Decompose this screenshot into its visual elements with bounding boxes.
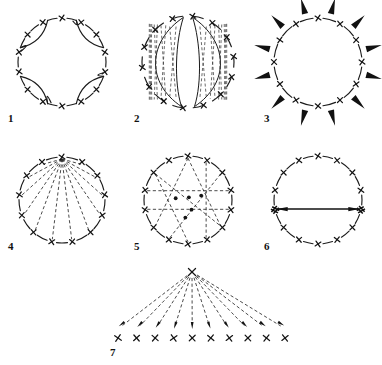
panel-2 bbox=[139, 13, 236, 110]
arrow-head bbox=[328, 109, 335, 125]
x-marker bbox=[354, 37, 359, 42]
x-marker bbox=[94, 87, 99, 92]
circle-arc-segment bbox=[355, 177, 359, 186]
arrow-head bbox=[119, 321, 125, 326]
x-marker bbox=[293, 21, 299, 27]
x-marker bbox=[204, 237, 209, 242]
x-marker bbox=[337, 21, 342, 26]
fan-line bbox=[122, 276, 187, 326]
arrow-head bbox=[137, 321, 143, 327]
circle-arc-segment bbox=[323, 242, 333, 244]
circle-arc-segment bbox=[85, 93, 93, 99]
x-marker bbox=[334, 237, 339, 242]
circle-arc-segment bbox=[344, 27, 353, 36]
circle-arc-segment bbox=[146, 177, 150, 186]
marker-stroke bbox=[282, 336, 288, 341]
panel-1-label: 1 bbox=[8, 112, 14, 124]
circle-arc-segment bbox=[358, 44, 361, 57]
circle-arc-segment bbox=[104, 200, 105, 211]
x-marker bbox=[31, 230, 36, 235]
x-marker bbox=[296, 158, 302, 164]
arrow-head bbox=[241, 321, 247, 327]
x-marker bbox=[16, 192, 22, 198]
panel-7-label: 7 bbox=[110, 346, 116, 358]
x-marker bbox=[263, 335, 269, 341]
panel-3-label: 3 bbox=[264, 112, 270, 124]
circle-arc-segment bbox=[48, 18, 58, 20]
circle-arc-segment bbox=[94, 220, 100, 229]
circle-arc-segment bbox=[20, 180, 24, 190]
inward-lobe-arc bbox=[76, 76, 103, 103]
x-marker bbox=[315, 103, 320, 108]
heavy-marker bbox=[271, 206, 279, 214]
circle-arc-segment bbox=[193, 156, 203, 158]
circle-arc-segment bbox=[304, 242, 314, 244]
circle-arc-segment bbox=[355, 215, 359, 224]
x-marker bbox=[185, 153, 191, 159]
x-marker bbox=[99, 212, 105, 218]
panel-6 bbox=[271, 153, 365, 247]
x-marker bbox=[170, 16, 176, 22]
panel-3 bbox=[254, 0, 382, 126]
x-marker bbox=[59, 15, 65, 21]
fan-line bbox=[175, 278, 190, 325]
circle-arc-segment bbox=[67, 104, 77, 106]
x-marker bbox=[40, 99, 45, 104]
circle-arc-segment bbox=[323, 102, 336, 105]
circle-arc-segment bbox=[283, 27, 292, 36]
chord-node-dot bbox=[187, 195, 191, 199]
circle-arc-segment bbox=[225, 177, 229, 186]
arrow-head bbox=[328, 0, 335, 15]
panel-2-label: 2 bbox=[134, 112, 140, 124]
x-marker bbox=[220, 225, 225, 230]
chord-line bbox=[188, 158, 221, 226]
x-marker bbox=[188, 268, 195, 275]
circle-arc-segment bbox=[31, 93, 39, 99]
marker-stroke bbox=[353, 82, 359, 86]
x-marker bbox=[210, 20, 215, 25]
panel-4 bbox=[16, 154, 107, 245]
x-marker bbox=[161, 98, 166, 103]
marker-stroke bbox=[49, 240, 55, 244]
marker-stroke bbox=[99, 213, 105, 217]
arrow-head bbox=[207, 322, 211, 329]
x-marker bbox=[142, 207, 148, 213]
x-marker bbox=[282, 335, 288, 341]
circle-arc-segment bbox=[19, 200, 20, 211]
inward-lobe-arc bbox=[20, 76, 47, 103]
circle-arc-segment bbox=[300, 102, 313, 105]
fan-line bbox=[158, 277, 189, 325]
circle-arc-segment bbox=[323, 156, 333, 158]
circle-arc-segment bbox=[276, 177, 280, 186]
lens-outline bbox=[193, 17, 221, 106]
marker-stroke bbox=[17, 192, 21, 198]
marker-stroke bbox=[102, 70, 108, 74]
x-marker bbox=[94, 32, 99, 37]
x-marker bbox=[151, 225, 156, 230]
x-marker bbox=[208, 335, 214, 341]
circle-arc-segment bbox=[341, 163, 349, 169]
chord-node-dot bbox=[183, 216, 187, 220]
x-marker bbox=[19, 213, 24, 218]
x-marker bbox=[142, 44, 148, 50]
circle-arc-segment bbox=[283, 88, 292, 97]
circle-arc-segment bbox=[323, 18, 336, 21]
circle-arc-segment bbox=[48, 104, 58, 106]
marker-stroke bbox=[316, 15, 320, 21]
x-marker bbox=[315, 241, 321, 247]
arrow-head bbox=[365, 45, 381, 52]
arrow-head bbox=[254, 72, 270, 79]
x-marker bbox=[245, 335, 251, 341]
circle-arc-segment bbox=[100, 180, 104, 190]
circle-arc-segment bbox=[211, 163, 219, 169]
x-marker bbox=[102, 192, 108, 198]
marker-stroke bbox=[293, 98, 299, 102]
x-marker bbox=[79, 159, 84, 164]
arrow-head bbox=[271, 15, 285, 29]
x-marker bbox=[353, 81, 359, 87]
x-marker bbox=[88, 230, 93, 235]
x-marker bbox=[315, 15, 321, 21]
circle-arc-segment bbox=[24, 220, 30, 229]
arrow-head bbox=[259, 321, 265, 326]
marker-stroke bbox=[17, 69, 21, 75]
